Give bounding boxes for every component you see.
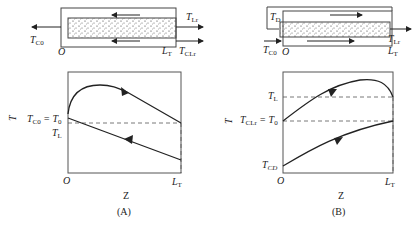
y-axis-label: T — [7, 114, 18, 121]
ytick-tl: TL — [52, 127, 62, 140]
x-end-label: LT — [384, 176, 396, 189]
panel-b-plot: T TL TCLr = T0 TCD O LT Z (B) — [223, 72, 396, 218]
y-axis-label: T — [223, 117, 234, 124]
arrow-left-icon — [124, 135, 133, 144]
ytick-tl: TL — [268, 90, 278, 103]
label-lt: LT — [387, 45, 399, 58]
label-tc0: TC0 — [30, 34, 44, 47]
ytick-tcd: TCD — [262, 159, 277, 172]
arrow-right-icon — [328, 89, 337, 97]
x-origin-label: O — [63, 175, 70, 186]
x-axis-label: Z — [123, 190, 129, 201]
panel-caption-b: (B) — [332, 206, 345, 218]
arrow-right-icon — [121, 87, 129, 96]
diagram-canvas: TC0 O LT TLr TCLr T TC0 = T0 TL O LT Z (… — [0, 0, 419, 225]
panel-b-schematic: TD TC0 O TLr LT — [263, 7, 411, 58]
label-tclr: TCLr — [179, 45, 197, 58]
gas-temperature-curve — [283, 80, 393, 121]
ytick-tclr-t0: TCLr = T0 — [240, 114, 278, 127]
catalyst-bed — [280, 22, 390, 37]
panel-a-schematic: TC0 O LT TLr TCLr — [30, 8, 203, 58]
label-tlr: TLr — [186, 11, 199, 24]
x-axis-label: Z — [338, 190, 344, 201]
x-origin-label: O — [277, 175, 284, 186]
plot-frame — [283, 72, 393, 173]
panel-caption-a: (A) — [117, 206, 131, 218]
arrow-right-icon — [334, 137, 343, 145]
x-end-label: LT — [171, 176, 183, 189]
label-origin: O — [58, 46, 65, 57]
label-td: TD — [270, 11, 281, 24]
catalyst-bed — [68, 18, 176, 38]
panel-a-plot: T TC0 = T0 TL O LT Z (A) — [7, 72, 183, 218]
label-origin: O — [282, 46, 289, 57]
ytick-tc0-t0: TC0 = T0 — [27, 113, 62, 126]
label-tc0: TC0 — [263, 44, 277, 57]
